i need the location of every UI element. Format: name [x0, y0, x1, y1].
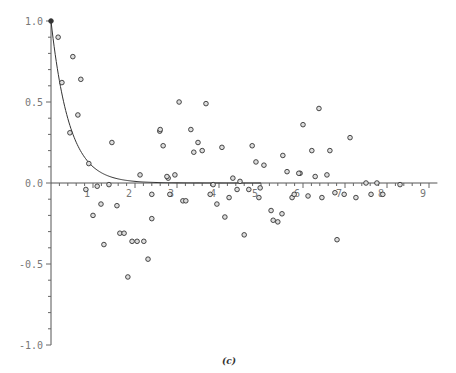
data-point	[173, 173, 178, 178]
data-point	[250, 143, 255, 148]
data-point	[211, 182, 216, 187]
data-point	[71, 54, 76, 59]
data-point	[333, 190, 338, 195]
data-point	[84, 187, 89, 192]
y-tick-label: -1.0	[19, 340, 43, 351]
data-point	[320, 195, 325, 200]
data-point	[196, 140, 201, 145]
data-point	[258, 186, 263, 191]
data-point	[369, 192, 374, 197]
data-point	[189, 127, 194, 132]
data-point	[276, 220, 281, 225]
data-point	[269, 208, 274, 213]
x-tick-label: 2	[126, 188, 132, 199]
data-point	[280, 211, 285, 216]
data-point	[292, 192, 297, 197]
data-point	[313, 174, 318, 179]
data-point	[87, 161, 92, 166]
data-point	[161, 143, 166, 148]
data-point	[165, 174, 170, 179]
data-point	[297, 171, 302, 176]
data-point	[254, 160, 259, 165]
data-point	[184, 199, 189, 204]
data-point	[215, 202, 220, 207]
data-point	[91, 213, 96, 218]
scatter-chart: 1.00.50.0-0.5-1.0123456789	[0, 0, 456, 373]
data-point	[122, 231, 127, 236]
decay-curve	[51, 21, 261, 183]
data-point	[285, 169, 290, 174]
data-point	[158, 127, 163, 132]
data-point	[115, 203, 120, 208]
data-point	[242, 233, 247, 238]
data-point	[79, 77, 84, 82]
data-point	[342, 192, 347, 197]
data-point	[49, 19, 54, 24]
data-point	[138, 173, 143, 178]
data-point	[192, 150, 197, 155]
y-tick-label: 0.0	[25, 178, 43, 189]
data-point	[223, 215, 228, 220]
data-point	[204, 101, 209, 106]
data-point	[271, 218, 276, 223]
data-point	[262, 163, 267, 168]
data-point	[56, 35, 61, 40]
data-point	[281, 153, 286, 158]
data-point	[381, 192, 386, 197]
data-point	[126, 275, 131, 280]
data-point	[99, 202, 104, 207]
data-point	[375, 181, 380, 186]
data-point	[247, 187, 252, 192]
data-point	[325, 173, 330, 178]
y-tick-label: -0.5	[19, 259, 43, 270]
data-point	[168, 192, 173, 197]
data-point	[306, 194, 311, 199]
data-point	[231, 176, 236, 181]
data-point	[110, 140, 115, 145]
data-point	[335, 237, 340, 242]
y-tick-label: 1.0	[25, 16, 43, 27]
data-point	[142, 239, 147, 244]
data-point	[310, 148, 315, 153]
data-point	[227, 195, 232, 200]
data-point	[301, 122, 306, 127]
data-point	[95, 184, 100, 189]
data-point	[200, 148, 205, 153]
data-point	[398, 182, 403, 187]
data-point	[348, 135, 353, 140]
data-point	[317, 106, 322, 111]
data-point	[235, 187, 240, 192]
scatter-points	[49, 19, 403, 280]
data-point	[208, 192, 213, 197]
figure-caption: (c)	[222, 356, 236, 366]
data-point	[60, 80, 65, 85]
data-point	[177, 100, 182, 105]
data-point	[107, 182, 112, 187]
data-point	[150, 216, 155, 221]
data-point	[364, 181, 369, 186]
data-point	[257, 195, 262, 200]
data-point	[76, 113, 81, 118]
data-point	[150, 192, 155, 197]
data-point	[220, 145, 225, 150]
x-tick-label: 9	[420, 188, 426, 199]
data-point	[328, 148, 333, 153]
y-tick-label: 0.5	[25, 97, 43, 108]
data-point	[68, 130, 73, 135]
data-point	[354, 195, 359, 200]
data-point	[146, 257, 151, 262]
data-point	[130, 239, 135, 244]
data-point	[135, 239, 140, 244]
data-point	[238, 179, 243, 184]
data-point	[102, 242, 107, 247]
